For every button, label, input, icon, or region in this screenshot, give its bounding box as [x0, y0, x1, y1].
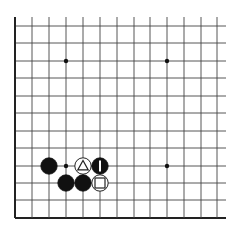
- black-stone-body: [58, 175, 74, 191]
- black-stone-body: [41, 158, 57, 174]
- black-stone: [58, 175, 74, 191]
- black-stone: [75, 175, 91, 191]
- black-stone-body: [75, 175, 91, 191]
- black-stone: [92, 158, 108, 174]
- board-grid: [15, 17, 226, 218]
- white-stone-body: [92, 175, 108, 191]
- stones: [41, 158, 108, 191]
- star-point: [165, 164, 169, 168]
- white-stone: [92, 175, 108, 191]
- star-point: [64, 59, 68, 63]
- black-stone: [41, 158, 57, 174]
- go-board: [0, 0, 241, 230]
- star-points: [64, 59, 169, 168]
- star-point: [165, 59, 169, 63]
- white-stone: [75, 158, 91, 174]
- star-point: [64, 164, 68, 168]
